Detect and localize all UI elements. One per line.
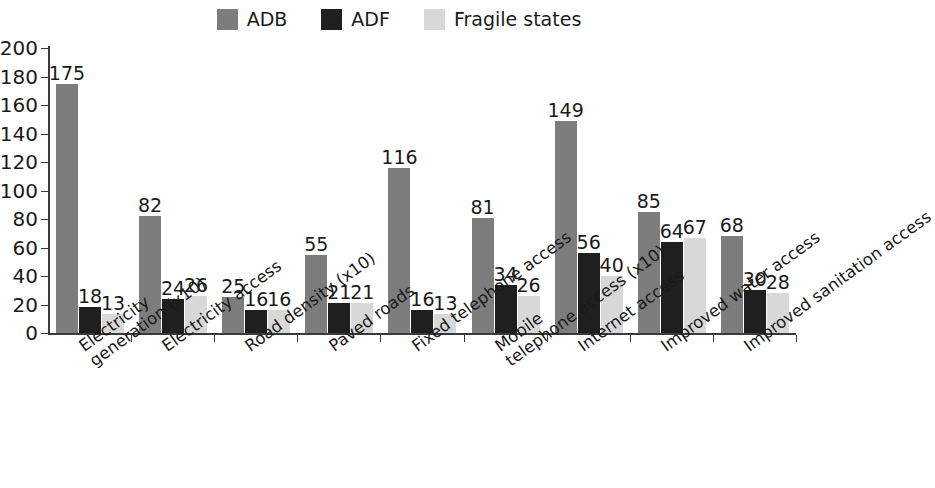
y-tick-label: 20 — [13, 294, 38, 314]
legend-entry[interactable]: ADB — [217, 9, 288, 30]
y-tick-label: 80 — [13, 209, 38, 229]
y-tick-label: 160 — [0, 95, 38, 115]
bar-value-label: 64 — [660, 222, 684, 241]
y-tick-label: 200 — [0, 38, 38, 58]
x-tick-mark — [796, 335, 797, 342]
y-tick-mark — [41, 333, 48, 334]
y-tick-label: 0 — [25, 323, 38, 343]
bar-value-label: 85 — [637, 192, 661, 211]
bar-value-label: 149 — [548, 101, 584, 120]
bar-value-label: 18 — [78, 287, 102, 306]
bar-value-label: 56 — [577, 233, 601, 252]
x-tick-mark — [464, 335, 465, 342]
y-tick-mark — [41, 105, 48, 106]
y-tick-label: 180 — [0, 66, 38, 86]
x-tick-mark — [713, 335, 714, 342]
x-tick-mark — [630, 335, 631, 342]
chart-legend: ADBADFFragile states — [0, 4, 798, 34]
legend-swatch-icon — [424, 9, 445, 30]
legend-label: ADB — [247, 10, 288, 29]
bar-value-label: 67 — [683, 218, 707, 237]
legend-label: Fragile states — [454, 10, 581, 29]
y-tick-mark — [41, 191, 48, 192]
bar-value-label: 116 — [381, 148, 417, 167]
legend-entry[interactable]: Fragile states — [424, 9, 581, 30]
y-tick-mark — [41, 162, 48, 163]
x-tick-mark — [380, 335, 381, 342]
y-tick-mark — [41, 305, 48, 306]
y-tick-label: 120 — [0, 152, 38, 172]
y-tick-mark — [41, 248, 48, 249]
bar-value-label: 55 — [304, 235, 328, 254]
bar-value-label: 81 — [470, 198, 494, 217]
bar-value-label: 175 — [49, 64, 85, 83]
y-tick-label: 40 — [13, 266, 38, 286]
y-tick-mark — [41, 219, 48, 220]
x-tick-mark — [214, 335, 215, 342]
bar[interactable]: 175 — [56, 84, 78, 333]
y-tick-mark — [41, 276, 48, 277]
y-tick-mark — [41, 134, 48, 135]
bar-group: 1751813 — [48, 48, 131, 333]
y-tick-mark — [41, 48, 48, 49]
x-tick-mark — [297, 335, 298, 342]
legend-entry[interactable]: ADF — [321, 9, 390, 30]
legend-swatch-icon — [321, 9, 342, 30]
y-tick-label: 140 — [0, 123, 38, 143]
legend-label: ADF — [351, 10, 390, 29]
bar[interactable]: 81 — [472, 218, 494, 333]
bar-value-label: 21 — [350, 283, 374, 302]
y-tick-label: 100 — [0, 180, 38, 200]
y-tick-mark — [41, 77, 48, 78]
y-tick-label: 60 — [13, 237, 38, 257]
legend-swatch-icon — [217, 9, 238, 30]
bar-value-label: 82 — [138, 196, 162, 215]
bar-value-label: 68 — [720, 216, 744, 235]
